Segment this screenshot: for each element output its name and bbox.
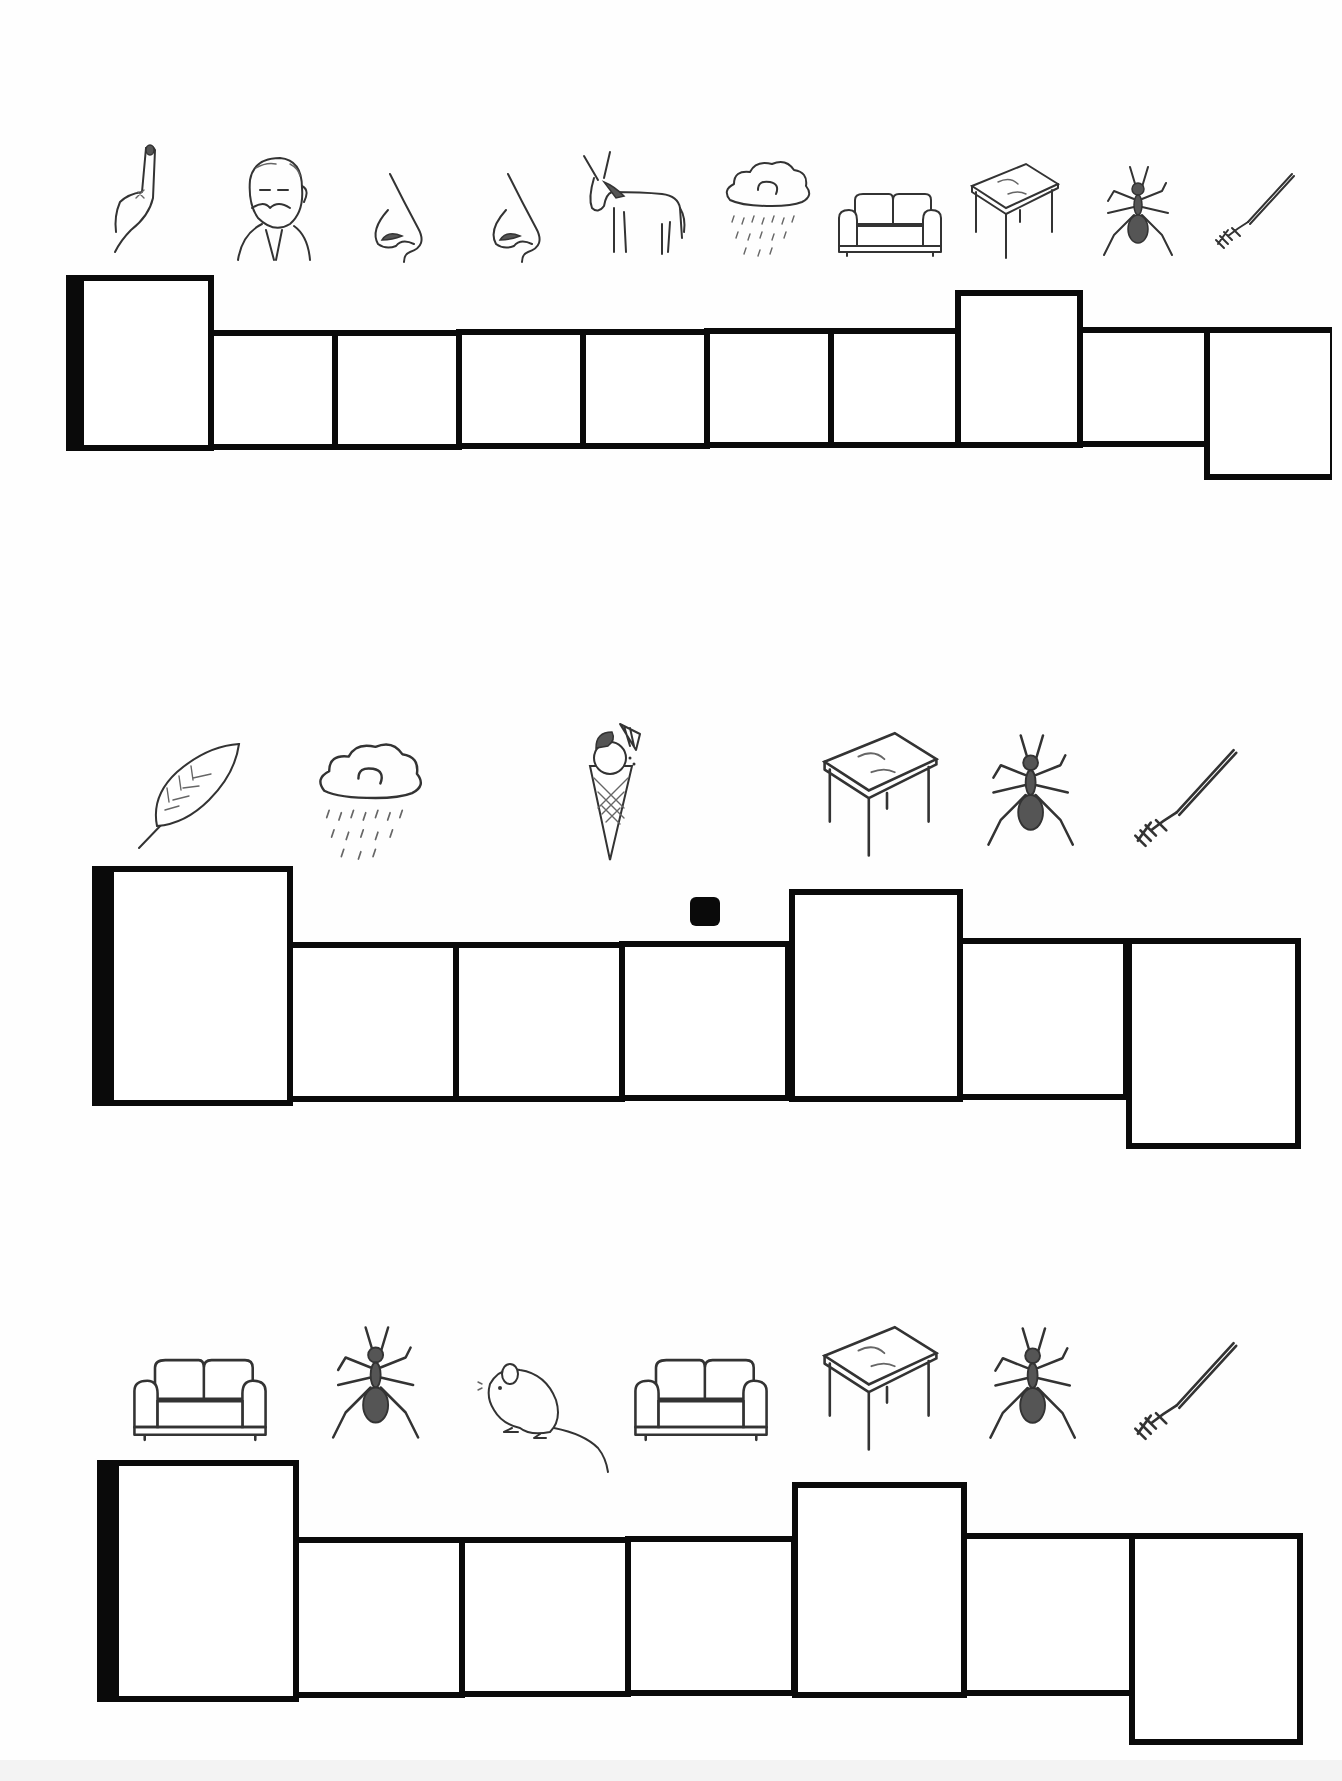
old-man-icon xyxy=(230,150,315,262)
table-icon xyxy=(818,1322,943,1452)
fork-icon xyxy=(1125,745,1240,855)
worksheet-page xyxy=(0,0,1342,1781)
table-icon xyxy=(818,728,943,858)
ant-icon xyxy=(1100,165,1175,265)
sofa-icon xyxy=(835,190,945,260)
letter-box[interactable] xyxy=(293,1537,465,1698)
letter-box[interactable] xyxy=(453,942,625,1102)
finger-icon xyxy=(108,140,178,260)
letter-box[interactable] xyxy=(1077,327,1210,447)
table-icon xyxy=(968,160,1062,260)
letter-box[interactable] xyxy=(625,1536,797,1696)
fork-icon xyxy=(1125,1338,1240,1448)
letter-box[interactable] xyxy=(828,328,961,448)
letter-box[interactable] xyxy=(208,330,338,450)
letter-box[interactable] xyxy=(580,329,710,449)
letter-box[interactable] xyxy=(961,1533,1135,1696)
letter-box-first[interactable] xyxy=(66,275,214,451)
ant-icon xyxy=(325,1325,425,1450)
rain-cloud-icon xyxy=(720,160,815,265)
nose-icon xyxy=(488,170,548,262)
fork-icon xyxy=(1210,170,1295,255)
letter-box-low[interactable] xyxy=(1126,938,1301,1149)
ant-icon xyxy=(982,1326,1082,1450)
letter-box[interactable] xyxy=(957,938,1129,1100)
letter-box[interactable] xyxy=(704,328,834,448)
letter-box-tall[interactable] xyxy=(955,290,1083,448)
ice-cream-icon xyxy=(580,718,646,863)
letter-box[interactable] xyxy=(619,941,791,1101)
letter-box[interactable] xyxy=(456,329,586,449)
letter-box-tall[interactable] xyxy=(789,889,963,1102)
sofa-icon xyxy=(128,1355,272,1445)
scan-edge xyxy=(0,1760,1342,1781)
letter-box-low[interactable] xyxy=(1129,1533,1303,1745)
letter-box[interactable] xyxy=(287,942,459,1102)
stress-marker xyxy=(690,897,720,926)
letter-box[interactable] xyxy=(459,1537,631,1697)
donkey-icon xyxy=(580,152,690,264)
letter-box-low[interactable] xyxy=(1204,327,1332,480)
sofa-icon xyxy=(630,1355,772,1445)
letter-box-first[interactable] xyxy=(97,1460,299,1702)
feather-icon xyxy=(135,740,245,852)
letter-box[interactable] xyxy=(332,330,462,450)
nose-icon xyxy=(370,170,430,262)
letter-box-tall[interactable] xyxy=(792,1482,967,1698)
mouse-icon xyxy=(478,1362,613,1472)
rain-cloud-icon xyxy=(310,742,430,870)
letter-box-first[interactable] xyxy=(92,866,293,1106)
ant-icon xyxy=(980,733,1080,857)
